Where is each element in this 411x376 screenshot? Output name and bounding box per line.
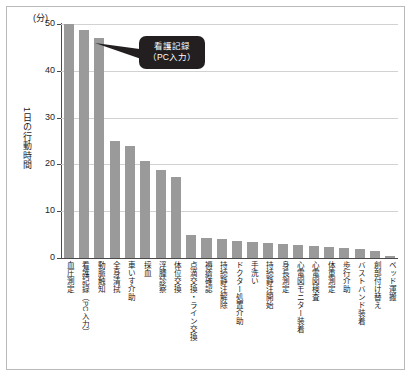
x-axis-label: 歩行介助 bbox=[340, 261, 350, 293]
bar bbox=[278, 244, 288, 259]
bar bbox=[263, 243, 273, 258]
y-axis-tick-label: 30 bbox=[45, 112, 55, 122]
x-axis-label: 心電図モニター装着 bbox=[294, 261, 304, 333]
x-axis-label: ドクター処置介助 bbox=[233, 261, 243, 325]
x-axis-label: 心電図検査 bbox=[310, 261, 320, 301]
x-axis-label: 動脈触知 bbox=[95, 261, 105, 293]
y-axis-tick-label: 0 bbox=[50, 252, 55, 262]
x-axis-label: 体重測定 bbox=[325, 261, 335, 293]
bar bbox=[140, 161, 150, 258]
bar bbox=[110, 141, 120, 258]
callout-line-1: 看護記録 bbox=[148, 41, 196, 52]
x-axis-label: 創部付け替え bbox=[371, 261, 381, 309]
bar bbox=[370, 251, 380, 258]
x-axis-label: 身長測定 bbox=[279, 261, 289, 293]
bar bbox=[171, 177, 181, 258]
callout-line-2: （PC入力） bbox=[148, 52, 196, 63]
x-axis-label: バストバンド装着 bbox=[356, 261, 366, 325]
x-axis-line bbox=[61, 258, 398, 259]
x-axis-label: 採血 bbox=[141, 261, 151, 277]
y-axis-tick-label: 20 bbox=[45, 158, 55, 168]
bar bbox=[309, 246, 319, 258]
bar bbox=[156, 170, 166, 258]
x-axis-label: 持続静注開始 bbox=[264, 261, 274, 309]
x-axis-label: 看護記録（PC入力） bbox=[80, 261, 90, 336]
x-axis-label: 手洗い bbox=[248, 261, 258, 285]
bar bbox=[247, 242, 257, 258]
y-axis-tick-label: 40 bbox=[45, 65, 55, 75]
bar bbox=[64, 24, 74, 258]
bar bbox=[339, 248, 349, 258]
y-axis-tick-label: 10 bbox=[45, 205, 55, 215]
x-axis-label: 褥瘡確認 bbox=[203, 261, 213, 293]
bar bbox=[232, 241, 242, 258]
x-axis-label: 体位交換 bbox=[172, 261, 182, 293]
bar bbox=[355, 249, 365, 258]
bar bbox=[217, 239, 227, 258]
y-axis-tick bbox=[57, 258, 61, 259]
bar-chart-figure: (分) 1日の行動時間 01020304050 血圧測定看護記録（PC入力）動脈… bbox=[0, 0, 411, 376]
bar bbox=[324, 247, 334, 258]
x-axis-label: ベッド運搬 bbox=[386, 261, 396, 301]
x-axis-label: 持続静注解除 bbox=[218, 261, 228, 309]
x-axis-label: 浮腫診察 bbox=[157, 261, 167, 293]
bar bbox=[125, 146, 135, 258]
x-axis-label: 全身清拭 bbox=[111, 261, 121, 293]
x-axis-label: 血圧測定 bbox=[65, 261, 75, 293]
y-axis-tick-label: 50 bbox=[45, 18, 55, 28]
x-axis-labels-group: 血圧測定看護記録（PC入力）動脈触知全身清拭車いす介助採血浮腫診察体位交換点滴交… bbox=[61, 261, 398, 367]
bar bbox=[94, 38, 104, 258]
bar bbox=[201, 238, 211, 258]
bar bbox=[79, 30, 89, 258]
x-axis-label: 車いす介助 bbox=[126, 261, 136, 301]
y-axis-title: 1日の行動時間 bbox=[20, 96, 32, 180]
bar bbox=[293, 245, 303, 258]
nursing-record-callout: 看護記録 （PC入力） bbox=[139, 36, 205, 69]
bar bbox=[385, 256, 395, 258]
x-axis-label: 点滴交換・ライン交換 bbox=[187, 261, 197, 341]
bar bbox=[186, 235, 196, 258]
